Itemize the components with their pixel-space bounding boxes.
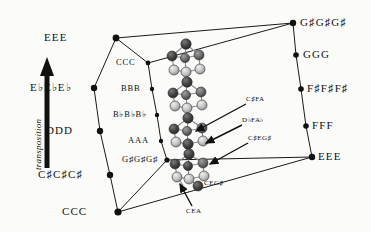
chord-label-c-e-a: CEA <box>186 208 202 215</box>
vertex-label-ccc-inner: CCC <box>116 58 135 67</box>
vertex-label-eee-right: EEE <box>318 151 341 162</box>
vertex-label-cs-cs-cs: C♯C♯C♯ <box>38 169 83 180</box>
vertex-label-fs-fs-fs: F♯F♯F♯ <box>307 83 348 94</box>
vertex-label-ccc-bottom-left: CCC <box>62 206 87 217</box>
arrow-c-e-a <box>180 184 192 206</box>
arrow-d-flat-f-a-flat <box>206 125 242 143</box>
vertex-label-bbb: BBB <box>121 84 140 93</box>
vertex-label-ddd: DDD <box>46 125 73 136</box>
vertex-label-gs-gs-gs-inner: G♯G♯G♯ <box>122 155 158 164</box>
figure-canvas: EEE E♭E♭E♭ DDD C♯C♯C♯ CCC CCC BBB B♭B♭B♭… <box>0 0 371 232</box>
vertex-label-bb-bb-bb: B♭B♭B♭ <box>113 110 147 119</box>
vertex-label-eb-eb-eb: E♭E♭E♭ <box>30 82 72 93</box>
chord-label-c-sharp-f-a: C♯FA <box>246 96 265 103</box>
vertex-label-aaa: AAA <box>128 136 149 145</box>
chord-label-d-flat-f-a-flat: D♭FA♭ <box>242 117 264 124</box>
chord-label-c-e-g-sharp: CEG♯ <box>204 180 224 187</box>
vertex-label-gs-gs-gs-right: G♯G♯G♯ <box>300 17 347 28</box>
chord-label-c-sharp-e-g-sharp: C♯EG♯ <box>248 135 272 142</box>
chord-cluster-chain <box>167 39 209 191</box>
axis-label-transposition: transposition <box>33 119 43 170</box>
vertex-label-ggg: GGG <box>303 49 330 60</box>
vertex-label-eee-top-left: EEE <box>44 32 67 43</box>
vertex-label-fff: FFF <box>312 120 334 131</box>
arrow-c-sharp-e-g-sharp <box>210 143 248 164</box>
